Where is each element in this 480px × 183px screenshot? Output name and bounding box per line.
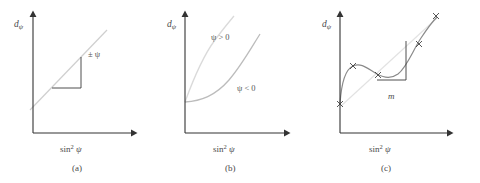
panel-a-caption: (a) <box>72 164 82 173</box>
panel-a-plot <box>0 0 160 183</box>
panel-c: dψ sin2 ψ m (c) <box>315 0 475 183</box>
panel-b-y-axis-label: dψ <box>167 20 176 31</box>
panel-a: dψ sin2 ψ ± ψ (a) <box>0 0 160 183</box>
panel-a-trend-line <box>30 30 107 110</box>
panel-b-annotation-psi-negative: ψ < 0 <box>237 84 256 93</box>
panel-c-annotation-slope-m: m <box>388 92 395 101</box>
panel-b-curve-psi-positive <box>185 16 234 102</box>
panel-b-x-axis-label: sin2 ψ <box>213 144 235 154</box>
panel-c-plot <box>315 0 480 183</box>
panel-a-annotation-plus-minus-psi: ± ψ <box>88 50 100 59</box>
panel-b-caption: (b) <box>225 164 236 173</box>
panel-c-x-axis-label: sin2 ψ <box>369 144 391 154</box>
panel-c-y-axis-label: dψ <box>322 20 331 31</box>
panel-c-caption: (c) <box>381 164 391 173</box>
panel-c-slope-bracket <box>377 41 406 80</box>
panel-b-plot <box>155 0 315 183</box>
data-point-marker <box>350 63 356 69</box>
panel-a-y-axis-label: dψ <box>14 20 23 31</box>
panel-b: dψ sin2 ψ ψ > 0 ψ < 0 (b) <box>155 0 315 183</box>
panel-a-x-axis-label: sin2 ψ <box>60 144 82 154</box>
panel-b-annotation-psi-positive: ψ > 0 <box>211 33 230 42</box>
